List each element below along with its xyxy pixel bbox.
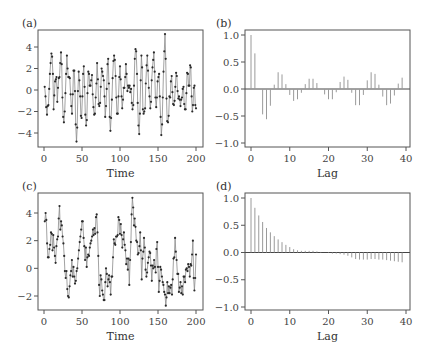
data-point xyxy=(112,77,114,79)
data-point xyxy=(155,248,157,250)
data-point xyxy=(106,88,108,90)
data-point xyxy=(140,249,142,251)
data-point xyxy=(96,231,98,233)
data-point xyxy=(65,73,67,75)
data-point xyxy=(161,276,163,278)
data-point xyxy=(101,71,103,73)
data-point xyxy=(122,238,124,240)
data-point xyxy=(177,90,179,92)
data-point xyxy=(78,249,80,251)
data-point xyxy=(136,73,138,75)
data-point xyxy=(48,256,50,258)
data-point xyxy=(58,217,60,219)
data-point xyxy=(65,277,67,279)
data-point xyxy=(151,79,153,81)
data-point xyxy=(154,266,156,268)
data-point xyxy=(191,95,193,97)
data-point xyxy=(186,270,188,272)
panel-a-time-series: (a) 050100150200−4−2024 Time xyxy=(17,17,205,180)
data-point xyxy=(157,80,159,82)
data-point xyxy=(73,276,75,278)
data-point xyxy=(178,95,180,97)
data-point xyxy=(55,76,57,78)
data-point xyxy=(126,90,128,92)
data-point xyxy=(136,241,138,243)
data-point xyxy=(57,87,59,89)
data-point xyxy=(183,103,185,105)
y-tick-label: 0.0 xyxy=(223,84,239,95)
data-point xyxy=(123,231,125,233)
data-point xyxy=(100,274,102,276)
data-point xyxy=(71,113,73,115)
data-point xyxy=(172,278,174,280)
data-point xyxy=(162,71,164,73)
data-point xyxy=(179,281,181,283)
x-tick-label: 0 xyxy=(248,316,254,327)
data-point xyxy=(45,219,47,221)
y-tick-label: 2 xyxy=(26,235,32,246)
data-point xyxy=(109,281,111,283)
panel-a-xlabel: Time xyxy=(107,167,135,180)
data-point xyxy=(114,59,116,61)
data-point xyxy=(79,235,81,237)
data-point xyxy=(48,88,50,90)
data-point xyxy=(159,95,161,97)
data-point xyxy=(185,92,187,94)
data-point xyxy=(145,82,147,84)
data-point xyxy=(75,141,77,143)
data-point xyxy=(98,105,100,107)
data-point xyxy=(131,197,133,199)
data-point xyxy=(127,269,129,271)
data-point xyxy=(52,234,54,236)
data-point xyxy=(169,292,171,294)
data-point xyxy=(84,86,86,88)
data-point xyxy=(139,231,141,233)
data-point xyxy=(112,256,114,258)
panel-b-axes: 010203040−1.0−0.50.00.51.0 xyxy=(215,30,413,165)
data-point xyxy=(66,55,68,57)
data-point xyxy=(109,130,111,132)
data-point xyxy=(141,278,143,280)
data-point xyxy=(70,270,72,272)
data-point xyxy=(86,266,88,268)
data-point xyxy=(119,65,121,67)
data-point xyxy=(186,267,188,269)
data-point xyxy=(183,276,185,278)
data-point xyxy=(94,233,96,235)
data-point xyxy=(144,247,146,249)
y-tick-label: −4 xyxy=(17,128,32,139)
data-point xyxy=(187,73,189,75)
y-tick-label: 0 xyxy=(26,263,32,274)
data-point xyxy=(57,235,59,237)
data-point xyxy=(50,52,52,54)
data-point xyxy=(100,278,102,280)
data-point xyxy=(71,259,73,261)
data-point xyxy=(134,226,136,228)
data-point xyxy=(157,266,159,268)
data-point xyxy=(162,284,164,286)
data-point xyxy=(72,93,74,95)
data-point xyxy=(152,265,154,267)
y-tick-label: 0 xyxy=(26,85,32,96)
data-point xyxy=(47,104,49,106)
data-point xyxy=(160,116,162,118)
panel-label-a: (a) xyxy=(22,17,37,30)
data-point xyxy=(95,96,97,98)
data-point xyxy=(46,242,48,244)
y-tick-label: 2 xyxy=(26,63,32,74)
data-point xyxy=(95,82,97,84)
data-point xyxy=(141,258,143,260)
data-point xyxy=(110,294,112,296)
y-tick-label: −2 xyxy=(17,106,32,117)
series-line xyxy=(45,34,196,142)
data-point xyxy=(115,75,117,77)
data-point xyxy=(165,296,167,298)
data-point xyxy=(106,273,108,275)
data-point xyxy=(139,113,141,115)
data-point xyxy=(190,265,192,267)
data-point xyxy=(175,72,177,74)
data-point xyxy=(98,284,100,286)
data-point xyxy=(195,253,197,255)
data-point xyxy=(85,247,87,249)
y-tick-label: 0.5 xyxy=(223,57,239,68)
